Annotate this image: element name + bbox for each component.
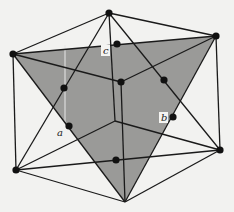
corner-dot-T [105, 9, 112, 16]
corner-dot-RL [216, 146, 223, 153]
face-dot-bottom [112, 156, 119, 163]
face-dot-c [113, 40, 120, 47]
edge-LU-LL [13, 54, 16, 170]
face-dot-a-upper [60, 84, 67, 91]
face-dot-b [169, 113, 176, 120]
edge-RU-RL [216, 36, 220, 150]
face-dot-b-upper [160, 76, 167, 83]
corner-dot-RU [212, 32, 219, 39]
corner-dot-LL [12, 166, 19, 173]
corner-dot-LU [9, 50, 16, 57]
label-a: a [57, 127, 63, 138]
cube-diagram: c b a [0, 0, 234, 212]
label-b: b [161, 112, 167, 123]
face-dot-a [65, 122, 72, 129]
cube-cross-section-figure: c b a [0, 0, 234, 212]
corner-dot-C [117, 78, 124, 85]
label-c: c [103, 45, 109, 56]
